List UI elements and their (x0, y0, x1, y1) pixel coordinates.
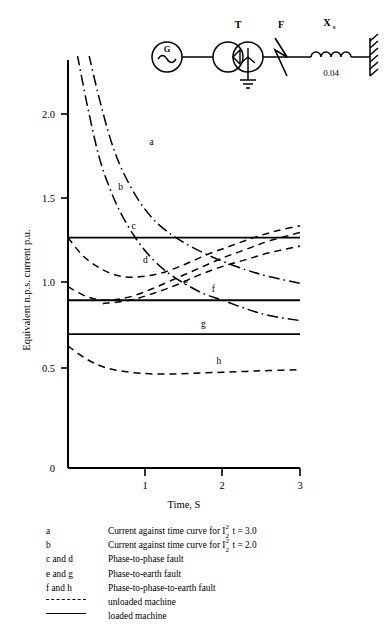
legend-row: c and dPhase-to-phase fault (46, 552, 386, 566)
y-ticklabel-0: 2.0 (42, 109, 55, 120)
y-ticklabel-origin: 0 (50, 463, 55, 474)
y-axis-title: Equivalent n.p.s. current p.u. (21, 229, 32, 350)
legend-swatch-solid-icon (46, 610, 86, 616)
y-ticklabel-3: 0.5 (42, 363, 55, 374)
curve-label-c: c (132, 221, 136, 231)
x-axis-title: Time, S (168, 499, 201, 510)
infinite-bus-symbol (370, 34, 378, 76)
legend-key: e and g (46, 567, 108, 581)
circuit-diagram (152, 34, 378, 88)
reactance-label: X (323, 17, 331, 28)
transformer-winding-primary (213, 42, 243, 72)
legend-swatch-dashed-icon (46, 596, 86, 602)
series-curve-e (68, 233, 300, 301)
generator-sine-icon (158, 56, 176, 63)
legend-key (46, 609, 108, 623)
legend-key: b (46, 538, 108, 552)
curve-label-e: e (183, 277, 187, 287)
series-curve-f2 (103, 246, 300, 304)
legend-key (46, 595, 108, 609)
legend-row: bCurrent against time curve for I22t = 2… (46, 538, 386, 552)
chart-legend: aCurrent against time curve for I22t = 3… (46, 524, 386, 623)
generator-label: G (164, 44, 171, 54)
legend-key: c and d (46, 552, 108, 566)
i2-squared-t-notation: 22 (225, 539, 232, 548)
series-curve-a (89, 55, 300, 284)
legend-row: loaded machine (46, 609, 386, 623)
chart-curve-labels: abcdefgh (118, 137, 221, 366)
reactor-symbol (311, 52, 351, 57)
series-curve-h (68, 346, 300, 374)
legend-row: aCurrent against time curve for I22t = 3… (46, 524, 386, 538)
legend-row: f and hPhase-to-phase-to-earth fault (46, 581, 386, 595)
series-curve-d (68, 226, 300, 277)
legend-description: Current against time curve for I22t = 3.… (108, 524, 386, 538)
curve-label-b: b (118, 182, 123, 192)
curve-label-f: f (212, 284, 216, 294)
chart-series-group (68, 55, 300, 374)
curve-label-h: h (216, 356, 221, 366)
legend-key: f and h (46, 581, 108, 595)
legend-description: Current against time curve for I22t = 2.… (108, 538, 386, 552)
curve-label-a: a (149, 137, 154, 147)
figure-root: G T F X s 0.04 2.0 1.5 1.0 0.5 0 (0, 0, 388, 636)
reactance-subscript: s (333, 23, 336, 31)
legend-row: e and gPhase-to-earth fault (46, 567, 386, 581)
legend-description: Phase-to-earth fault (108, 567, 386, 581)
x-ticklabel-2: 2 (219, 480, 224, 491)
legend-row: unloaded machine (46, 595, 386, 609)
y-ticklabel-1: 1.5 (42, 193, 55, 204)
series-curve-b (77, 55, 300, 321)
curve-label-g: g (201, 319, 206, 329)
curve-label-d: d (143, 255, 148, 265)
transformer-label: T (235, 19, 242, 30)
legend-description: Phase-to-phase fault (108, 552, 386, 566)
i2-squared-t-notation: 22 (225, 525, 232, 534)
fault-label: F (278, 19, 284, 30)
axis-ticks (61, 114, 300, 476)
x-ticklabel-1: 1 (142, 480, 147, 491)
reactance-value: 0.04 (323, 68, 339, 78)
legend-description: loaded machine (108, 609, 386, 623)
x-ticklabel-3: 3 (297, 480, 302, 491)
legend-description: unloaded machine (108, 595, 386, 609)
y-ticklabel-2: 1.0 (42, 277, 55, 288)
legend-key: a (46, 524, 108, 538)
earth-symbol (240, 80, 256, 88)
legend-description: Phase-to-phase-to-earth fault (108, 581, 386, 595)
